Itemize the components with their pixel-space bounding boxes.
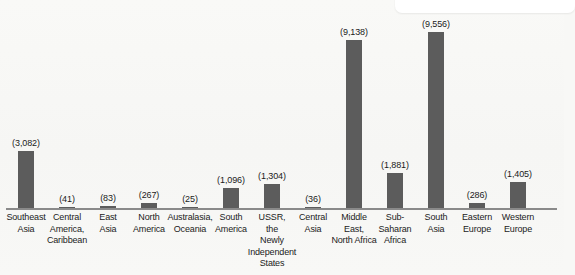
- bar-label-line: Europe: [463, 224, 491, 234]
- bar-label-line: East: [99, 212, 116, 222]
- bar-value-label: (9,138): [340, 27, 368, 37]
- bar-label-line: Asia: [100, 224, 117, 234]
- bar-label-line: the: [266, 224, 278, 234]
- bar-label-line: Europe: [504, 224, 532, 234]
- bar-label-line: Central: [53, 212, 81, 222]
- bar: [223, 188, 239, 208]
- bar-value-label: (41): [59, 194, 75, 204]
- bar: [305, 207, 321, 209]
- bar-label-line: Southeast: [6, 212, 45, 222]
- bar-label-line: East,: [344, 224, 364, 234]
- bar-group: (1,405)WesternEurope: [498, 0, 539, 275]
- bar: [141, 203, 157, 208]
- bar-label-line: South: [425, 212, 448, 222]
- bar-value-label: (83): [100, 193, 116, 203]
- bar-label-line: Caribbean: [47, 235, 87, 245]
- bar-label-line: America: [133, 224, 165, 234]
- bar-label-line: Western: [502, 212, 534, 222]
- bar: [100, 206, 116, 208]
- bar-label-line: Saharan: [379, 224, 412, 234]
- bar: [18, 151, 34, 208]
- white-overlay-panel: [395, 0, 575, 13]
- bar: [387, 173, 403, 208]
- bar-category-label: WesternEurope: [492, 212, 544, 235]
- bar-value-label: (286): [467, 190, 488, 200]
- bar-value-label: (36): [305, 194, 321, 204]
- bar: [469, 203, 485, 208]
- bar-label-line: USSR,: [259, 212, 286, 222]
- bar-value-label: (25): [182, 194, 198, 204]
- bar: [59, 207, 75, 209]
- bar-label-line: Asia: [305, 224, 322, 234]
- bar-label-line: South: [220, 212, 243, 222]
- bar-label-line: Newly: [260, 235, 284, 245]
- bar-label-line: Asia: [428, 224, 445, 234]
- bar-label-line: America: [215, 224, 247, 234]
- bar-value-label: (1,405): [504, 169, 532, 179]
- bar-label-line: Sub-: [386, 212, 404, 222]
- bar-value-label: (1,096): [217, 175, 245, 185]
- bar-value-label: (9,556): [422, 19, 450, 29]
- bar-label-line: Africa: [384, 235, 406, 245]
- bar-label-line: Eastern: [462, 212, 492, 222]
- bar-label-line: America,: [50, 224, 84, 234]
- bar: [264, 184, 280, 208]
- bar-label-line: North: [138, 212, 159, 222]
- bar: [346, 40, 362, 208]
- bar-value-label: (267): [139, 190, 160, 200]
- bar-label-line: Independent: [248, 247, 296, 257]
- bar: [428, 32, 444, 208]
- bar-label-line: Oceania: [174, 224, 206, 234]
- bar-label-line: Central: [299, 212, 327, 222]
- bar-label-line: States: [260, 258, 285, 268]
- bar-value-label: (1,881): [381, 160, 409, 170]
- bar: [510, 182, 526, 208]
- bar: [182, 207, 198, 209]
- bar-value-label: (3,082): [12, 138, 40, 148]
- bar-label-line: Asia: [18, 224, 35, 234]
- bar-value-label: (1,304): [258, 171, 286, 181]
- bar-label-line: Middle: [341, 212, 367, 222]
